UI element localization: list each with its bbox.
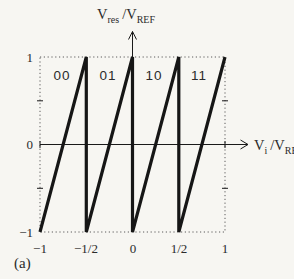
y-tick-label-0: 0 [27,137,34,152]
x-tick-label-neghalf: −1/2 [74,241,98,256]
figure-caption: (a) [14,255,31,272]
x-tick-label-1: 1 [222,241,229,256]
region-label-11: 11 [191,68,207,83]
x-tick-label-0: 0 [130,241,137,256]
y-tick-label-neg1: −1 [19,225,33,240]
region-label-00: 00 [53,68,70,83]
residue-plot-canvas: 1 0 −1 −1 −1/2 0 1/2 1 00 01 10 11 Vres/… [0,0,294,279]
region-label-01: 01 [99,68,116,83]
y-tick-label-1: 1 [27,50,34,65]
x-axis-title: Vi/VREF [254,137,294,156]
x-tick-label-half: 1/2 [171,241,188,256]
residue-plot-figure: 1 0 −1 −1 −1/2 0 1/2 1 00 01 10 11 Vres/… [0,0,294,279]
region-label-10: 10 [145,68,162,83]
x-tick-label-neg1: −1 [33,241,47,256]
y-axis-title: Vres/VREF [97,6,155,25]
